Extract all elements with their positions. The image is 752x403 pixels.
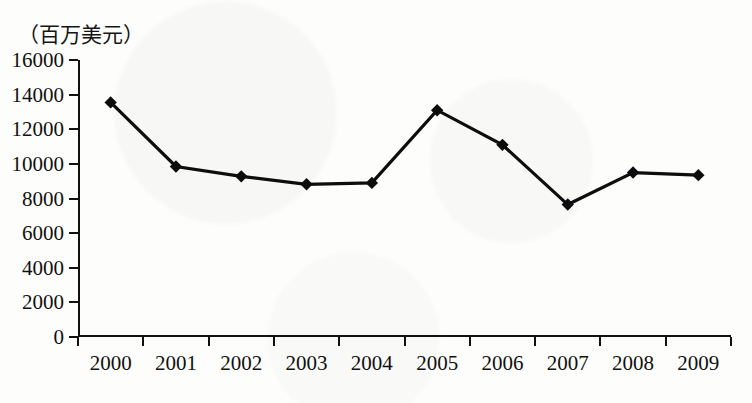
x-axis-tick-label: 2007 <box>547 353 589 374</box>
chart-root: （百万美元） 160001400012000100008000600040002… <box>0 0 752 403</box>
y-axis-tick-label: 4000 <box>22 257 64 278</box>
x-axis-tick-label: 2004 <box>351 353 393 374</box>
x-axis-tick <box>77 337 79 346</box>
y-axis-tick-label: 6000 <box>22 223 64 244</box>
y-axis-unit-title: （百万美元） <box>18 18 144 48</box>
x-axis-tick <box>404 337 406 346</box>
x-axis-tick <box>665 337 667 346</box>
x-axis-tick <box>208 337 210 346</box>
x-axis-tick-label: 2003 <box>286 353 328 374</box>
data-point-marker <box>300 178 312 190</box>
series-polyline <box>111 102 699 204</box>
y-axis-tick <box>69 267 78 269</box>
plot-area: 1600014000120001000080006000400020000 20… <box>78 60 731 337</box>
x-axis-tick <box>469 337 471 346</box>
x-axis-tick <box>273 337 275 346</box>
data-series-line <box>78 60 731 337</box>
y-axis-tick <box>69 232 78 234</box>
y-axis-tick-label: 12000 <box>12 119 65 140</box>
data-point-marker <box>627 166 639 178</box>
y-axis-tick-label: 8000 <box>22 188 64 209</box>
x-axis-tick <box>599 337 601 346</box>
x-axis-tick <box>730 337 732 346</box>
y-axis-tick <box>69 198 78 200</box>
x-axis-tick-label: 2002 <box>220 353 262 374</box>
x-axis-tick <box>338 337 340 346</box>
x-axis-tick-label: 2008 <box>612 353 654 374</box>
y-axis-tick-label: 10000 <box>12 153 65 174</box>
y-axis-tick <box>69 128 78 130</box>
y-axis-tick <box>69 163 78 165</box>
x-axis-tick-label: 2000 <box>90 353 132 374</box>
x-axis-tick-label: 2006 <box>481 353 523 374</box>
data-point-marker <box>235 170 247 182</box>
y-axis-tick-label: 2000 <box>22 292 64 313</box>
y-axis-tick-label: 14000 <box>12 84 65 105</box>
y-axis-tick <box>69 94 78 96</box>
y-axis-tick-label: 0 <box>54 327 65 348</box>
x-axis-tick-label: 2005 <box>416 353 458 374</box>
y-axis-tick <box>69 59 78 61</box>
y-axis-tick-label: 16000 <box>12 50 65 71</box>
x-axis-tick <box>142 337 144 346</box>
x-axis-tick-label: 2001 <box>155 353 197 374</box>
data-point-marker <box>692 169 704 181</box>
y-axis-tick <box>69 301 78 303</box>
x-axis-tick-label: 2009 <box>677 353 719 374</box>
x-axis-tick <box>534 337 536 346</box>
